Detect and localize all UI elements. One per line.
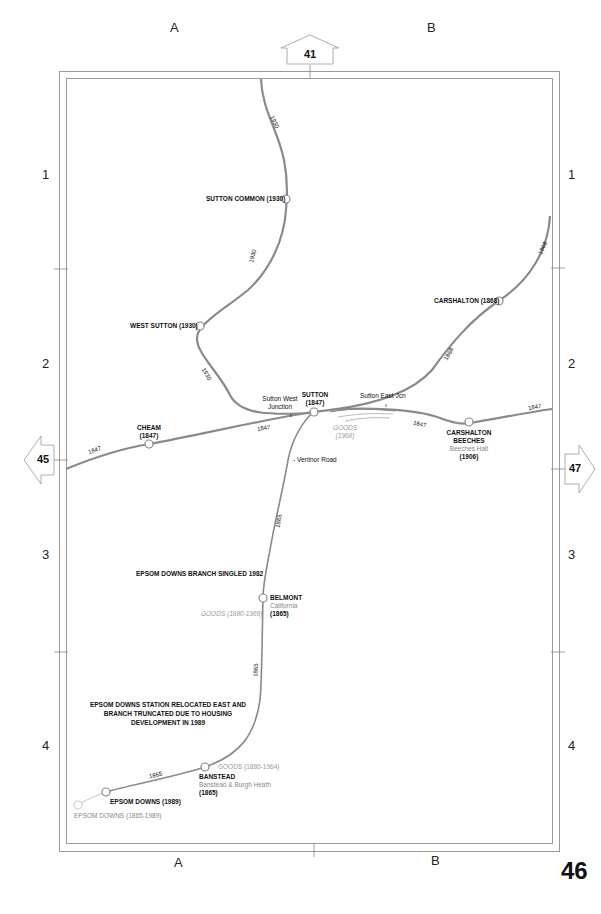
station-label-sutton-common: SUTTON COMMON (1930) (206, 195, 285, 203)
date-label-branch-mid: 1865 (251, 663, 259, 677)
station-label-cheam: CHEAM (1847) (129, 424, 169, 440)
goods-label-sutton: GOODS (1968) (330, 424, 360, 440)
line-carshalton (330, 216, 550, 410)
junction-label-sutton-west: Sutton West Junction (258, 395, 302, 411)
goods-line2: (1968) (330, 432, 360, 440)
goods-line1: GOODS (330, 424, 360, 432)
junction-label-sutton-east: Sutton East Jcn (360, 392, 406, 400)
station-former-name-banstead: Banstead & Burgh Heath (199, 781, 271, 789)
note-line2: BRANCH TRUNCATED DUE TO HOUSING (78, 709, 258, 718)
line-sutton-common (197, 79, 313, 414)
station-date-cheam: (1847) (129, 432, 169, 440)
station-date: (1906) (444, 453, 494, 461)
line-main-west (66, 412, 313, 469)
station-name-belmont: BELMONT (270, 594, 302, 602)
adjacent-page-west[interactable]: 45 (33, 453, 53, 465)
station-date-sutton: (1847) (300, 399, 330, 407)
note-station-relocated: EPSOM DOWNS STATION RELOCATED EAST AND B… (78, 700, 258, 727)
station-date-belmont: (1865) (270, 610, 302, 618)
junction-label-ventnor-road: - Ventnor Road (293, 456, 337, 464)
station-marker-cheam[interactable] (145, 440, 153, 448)
station-name-sutton: SUTTON (300, 391, 330, 399)
adjacent-page-east[interactable]: 47 (565, 462, 585, 474)
station-label-west-sutton: WEST SUTTON (1930) (130, 322, 198, 330)
station-label-sutton: SUTTON (1847) (300, 391, 330, 407)
station-former-name-belmont: California (270, 602, 302, 610)
note-line1: EPSOM DOWNS STATION RELOCATED EAST AND (78, 700, 258, 709)
station-marker-epsom-downs-new[interactable] (102, 788, 110, 796)
station-marker-epsom-downs-old[interactable] (74, 801, 82, 809)
station-marker-carshalton-beeches[interactable] (465, 418, 473, 426)
junction-name-line1: Sutton West (258, 395, 302, 403)
station-name-banstead: BANSTEAD (199, 773, 271, 781)
station-marker-banstead[interactable] (201, 763, 209, 771)
station-name-line1: CARSHALTON (444, 429, 494, 437)
note-line3: DEVELOPMENT IN 1989 (78, 718, 258, 727)
station-name-cheam: CHEAM (129, 424, 169, 432)
note-branch-singled: EPSOM DOWNS BRANCH SINGLED 1982 (136, 569, 263, 578)
station-label-carshalton: CARSHALTON (1868) (434, 297, 500, 305)
station-name-line2: BEECHES (444, 437, 494, 445)
adjacent-page-north[interactable]: 41 (300, 48, 320, 60)
goods-label-belmont: GOODS (1880-1969) (201, 610, 262, 617)
station-former-name: Beeches Halt (444, 445, 494, 453)
station-marker-sutton[interactable] (310, 408, 318, 416)
station-label-banstead: BANSTEAD Banstead & Burgh Heath (1865) (199, 773, 271, 797)
station-marker-belmont[interactable] (259, 594, 267, 602)
junction-name-line2: Junction (258, 403, 302, 411)
station-label-epsom-downs-new: EPSOM DOWNS (1989) (110, 798, 181, 806)
station-label-epsom-downs-old: EPSOM DOWNS (1865-1989) (74, 812, 161, 820)
station-date-banstead: (1865) (199, 789, 271, 797)
line-disused-section (78, 792, 106, 805)
station-label-belmont: BELMONT California (1865) (270, 594, 302, 618)
line-main-east (313, 409, 552, 424)
goods-label-banstead: GOODS (1880-1964) (218, 763, 279, 770)
station-label-carshalton-beeches: CARSHALTON BEECHES Beeches Halt (1906) (444, 429, 494, 461)
